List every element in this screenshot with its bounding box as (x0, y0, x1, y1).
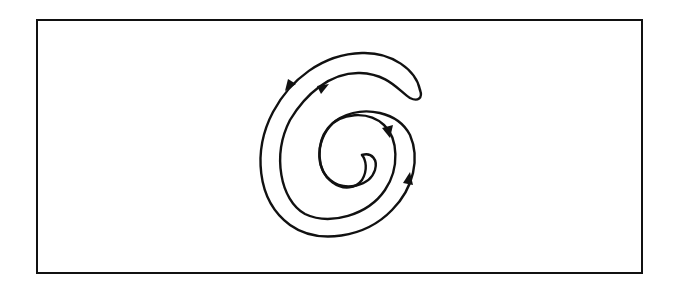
arrowhead-outer-right-icon (403, 172, 413, 185)
arrowhead-second-top-left-icon (317, 84, 329, 94)
double-spiral-diagram (0, 0, 675, 290)
arrowhead-outer-top-left-icon (285, 79, 296, 91)
spiral-inner-arm (280, 73, 421, 219)
spiral-outer-arm (261, 53, 420, 236)
